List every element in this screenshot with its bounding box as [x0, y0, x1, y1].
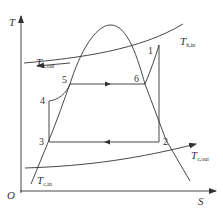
- point-3-label: 3: [39, 137, 44, 147]
- arrow-5-6: [105, 82, 111, 87]
- hot-outlet-label: Th,out: [36, 57, 54, 69]
- saturation-dome: [31, 25, 190, 184]
- point-5-label: 5: [62, 75, 67, 85]
- cold-outlet-label: Tc,out: [191, 150, 209, 162]
- y-axis-label: T: [9, 17, 15, 28]
- origin-label: O: [7, 190, 15, 201]
- arrow-2-3: [104, 140, 110, 145]
- x-axis-label: S: [198, 196, 204, 207]
- point-1-label: 1: [148, 46, 153, 56]
- point-6-label: 6: [134, 74, 139, 84]
- ts-diagram: [0, 0, 223, 212]
- cold-inlet-label: Tc,in: [37, 175, 52, 187]
- hot-inlet-label: Th,in: [180, 36, 195, 48]
- point-2-label: 2: [163, 137, 168, 147]
- point-4-label: 4: [40, 96, 45, 106]
